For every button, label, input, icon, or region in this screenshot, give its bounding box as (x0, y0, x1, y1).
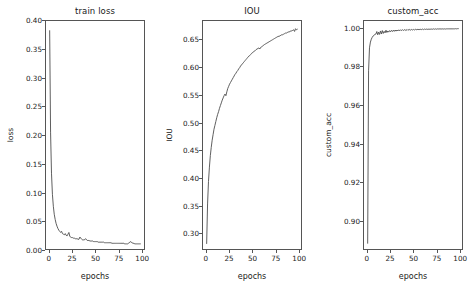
y-tick-labels: 0.000.050.100.150.200.250.300.350.40 (14, 20, 42, 250)
y-tick-label: 0.10 (16, 188, 42, 197)
x-tick-label: 75 (114, 254, 123, 263)
axes-frame (45, 20, 145, 250)
x-tick-mark (276, 250, 277, 253)
y-axis-label: loss (6, 128, 15, 143)
y-tick-mark (199, 150, 202, 151)
y-tick-label: 0.65 (173, 35, 199, 44)
x-tick-mark (437, 250, 438, 253)
y-tick-label: 0.45 (173, 146, 199, 155)
series-line (368, 29, 459, 244)
y-tick-label: 0.30 (16, 73, 42, 82)
x-tick-mark (299, 250, 300, 253)
y-tick-mark (360, 105, 363, 106)
x-tick-label: 0 (364, 254, 369, 263)
y-tick-label: 0.25 (16, 102, 42, 111)
plot-line-train-loss (46, 21, 144, 249)
y-tick-mark (42, 221, 45, 222)
y-tick-label: 0.40 (173, 173, 199, 182)
x-tick-mark (252, 250, 253, 253)
y-tick-label: 0.40 (16, 16, 42, 25)
x-tick-mark (367, 250, 368, 253)
x-tick-label: 25 (68, 254, 77, 263)
x-tick-label: 100 (292, 254, 306, 263)
y-tick-mark (199, 206, 202, 207)
x-tick-mark (72, 250, 73, 253)
y-tick-label: 0.05 (16, 217, 42, 226)
y-tick-mark (42, 106, 45, 107)
x-tick-label: 0 (203, 254, 208, 263)
y-tick-mark (42, 250, 45, 251)
series-line (207, 29, 298, 244)
y-tick-label: 0.92 (334, 178, 360, 187)
y-tick-label: 0.98 (334, 62, 360, 71)
y-tick-label: 0.94 (334, 139, 360, 148)
y-tick-label: 0.35 (173, 201, 199, 210)
y-tick-label: 0.96 (334, 101, 360, 110)
panel-title: custom_acc (363, 6, 463, 16)
x-tick-label: 50 (91, 254, 100, 263)
x-tick-mark (460, 250, 461, 253)
x-tick-label: 75 (432, 254, 441, 263)
x-tick-mark (49, 250, 50, 253)
y-tick-label: 0.60 (173, 63, 199, 72)
y-tick-labels: 0.900.920.940.960.981.00 (332, 20, 360, 250)
axes-frame (363, 20, 463, 250)
y-axis-label: custom_acc (324, 113, 333, 157)
y-tick-label: 0.55 (173, 90, 199, 99)
plot-line-iou (203, 21, 301, 249)
y-tick-label: 0.30 (173, 229, 199, 238)
x-tick-label: 25 (225, 254, 234, 263)
y-tick-mark (360, 28, 363, 29)
y-tick-mark (42, 135, 45, 136)
x-tick-label: 50 (409, 254, 418, 263)
x-axis-label: epochs (45, 272, 145, 281)
x-tick-mark (119, 250, 120, 253)
panel-title: train loss (45, 6, 145, 16)
y-tick-label: 0.90 (334, 217, 360, 226)
y-tick-label: 0.35 (16, 44, 42, 53)
figure-canvas: train loss 0.000.050.100.150.200.250.300… (0, 0, 473, 300)
y-tick-mark (360, 182, 363, 183)
x-tick-mark (142, 250, 143, 253)
x-tick-label: 75 (271, 254, 280, 263)
y-tick-labels: 0.300.350.400.450.500.550.600.65 (171, 20, 199, 250)
y-tick-mark (199, 39, 202, 40)
y-tick-mark (360, 66, 363, 67)
y-tick-mark (199, 95, 202, 96)
y-tick-mark (42, 78, 45, 79)
subplot-train-loss: train loss 0.000.050.100.150.200.250.300… (0, 0, 157, 300)
x-tick-mark (413, 250, 414, 253)
y-axis-label: IOU (165, 128, 174, 142)
y-tick-mark (360, 144, 363, 145)
x-tick-label: 100 (453, 254, 467, 263)
y-tick-mark (199, 178, 202, 179)
y-tick-mark (42, 164, 45, 165)
x-tick-mark (206, 250, 207, 253)
subplot-custom-acc: custom_acc 0.900.920.940.960.981.00 epoc… (315, 0, 472, 300)
y-tick-label: 0.20 (16, 131, 42, 140)
subplot-iou: IOU 0.300.350.400.450.500.550.600.65 epo… (157, 0, 314, 300)
y-tick-mark (199, 123, 202, 124)
x-axis-label: epochs (363, 272, 463, 281)
x-tick-mark (390, 250, 391, 253)
x-tick-label: 0 (46, 254, 51, 263)
axes-frame (202, 20, 302, 250)
plot-line-custom-acc (364, 21, 462, 249)
y-tick-mark (360, 221, 363, 222)
y-tick-mark (199, 233, 202, 234)
y-tick-mark (42, 193, 45, 194)
x-tick-label: 100 (135, 254, 149, 263)
y-tick-label: 1.00 (334, 23, 360, 32)
x-tick-mark (95, 250, 96, 253)
x-tick-label: 25 (386, 254, 395, 263)
y-tick-label: 0.15 (16, 159, 42, 168)
y-tick-label: 0.00 (16, 246, 42, 255)
series-line (50, 31, 141, 244)
x-axis-label: epochs (202, 272, 302, 281)
y-tick-mark (199, 67, 202, 68)
x-tick-label: 50 (248, 254, 257, 263)
y-tick-mark (42, 49, 45, 50)
y-tick-label: 0.50 (173, 118, 199, 127)
y-tick-mark (42, 20, 45, 21)
panel-title: IOU (202, 6, 302, 16)
